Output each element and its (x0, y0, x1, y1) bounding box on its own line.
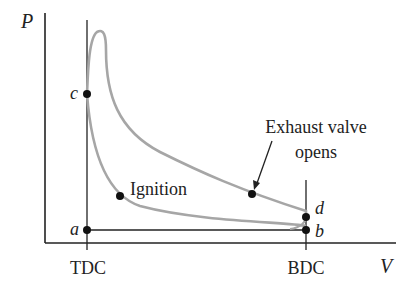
exhaust-label-line1: Exhaust valve (265, 117, 366, 137)
exhaust-label-line2: opens (295, 142, 337, 162)
tdc-label: TDC (70, 258, 106, 278)
p-axis-label: P (20, 10, 33, 32)
v-axis-label: V (380, 255, 395, 277)
exhaust-arrow-line (256, 141, 272, 186)
point-b-label: b (315, 221, 324, 241)
point-d (302, 213, 310, 221)
point-a (83, 226, 91, 234)
point-a-label: a (70, 219, 79, 239)
bdc-label: BDC (287, 258, 324, 278)
ignition-label: Ignition (130, 179, 187, 199)
point-b (302, 226, 310, 234)
pv-diagram: P V TDC BDC a b c d Ignition Exhaust val… (0, 0, 419, 289)
point-c-label: c (70, 83, 78, 103)
point-c (83, 90, 91, 98)
exhaust-arrow-head (253, 180, 260, 190)
exhaust-valve-point (248, 190, 256, 198)
ignition-point (116, 192, 124, 200)
point-d-label: d (315, 198, 325, 218)
